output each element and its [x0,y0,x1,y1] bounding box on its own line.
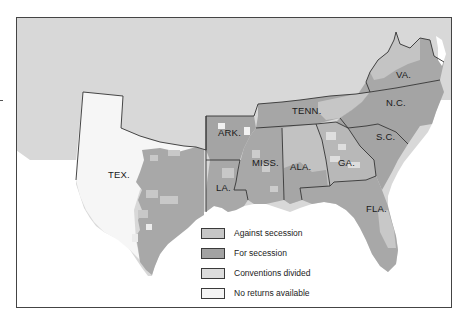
label-fla: FLA. [366,203,387,214]
label-ala: ALA. [290,161,311,172]
label-ark: ARK. [218,127,241,138]
legend-swatch-no-returns [201,288,225,299]
legend-item-against: Against secession [200,227,370,240]
map-frame: TEX. ARK. LA. MISS. ALA. TENN. GA. FLA. … [16,17,452,308]
legend-swatch-against [201,228,225,239]
label-ga: GA. [338,157,355,168]
label-la: LA. [216,182,231,193]
label-tex: TEX. [108,169,130,180]
la-patch [222,168,234,178]
legend-label-no-returns: No returns available [234,287,310,300]
legend-item-no-returns: No returns available [200,287,370,300]
legend-item-divided: Conventions divided [200,267,370,280]
label-va: VA. [396,69,411,80]
secession-map: TEX. ARK. LA. MISS. ALA. TENN. GA. FLA. … [16,17,452,308]
legend-label-for: For secession [234,247,287,260]
stray-mark [0,100,3,101]
label-nc: N.C. [386,97,406,108]
ark-patch [244,127,250,135]
legend-item-for: For secession [200,247,370,260]
legend-swatch-divided [201,268,225,279]
label-tenn: TENN. [292,105,322,116]
legend-swatch-for [201,248,225,259]
legend-label-divided: Conventions divided [234,267,311,280]
label-miss: MISS. [252,157,279,168]
legend-label-against: Against secession [234,227,303,240]
label-sc: S.C. [376,131,395,142]
